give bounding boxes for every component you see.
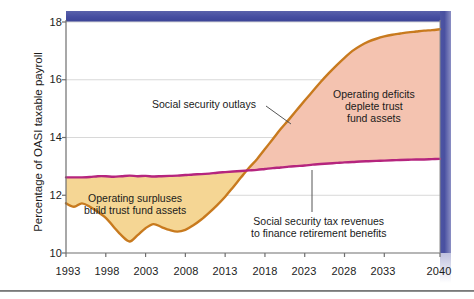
bottom-divider bbox=[0, 290, 474, 292]
annotation-surpluses-line2: build trust fund assets bbox=[84, 204, 186, 216]
annotation-revenues-line2: to finance retirement benefits bbox=[251, 227, 386, 239]
annotation-operating-surpluses: Operating surpluses build trust fund ass… bbox=[84, 192, 186, 216]
annotation-surpluses-line1: Operating surpluses bbox=[84, 192, 186, 204]
x-tick-1998: 1998 bbox=[87, 265, 127, 277]
y-tick-18: 18 bbox=[36, 16, 62, 28]
leader-line-outlays bbox=[266, 106, 291, 124]
y-tick-14: 14 bbox=[36, 131, 62, 143]
x-tick-2013: 2013 bbox=[205, 265, 245, 277]
annotation-deficits-line1: Operating deficits bbox=[333, 88, 415, 100]
annotation-revenues-line1: Social security tax revenues bbox=[251, 215, 386, 227]
x-tick-2003: 2003 bbox=[126, 265, 166, 277]
chart-plot-area bbox=[0, 0, 474, 299]
x-tick-2023: 2023 bbox=[284, 265, 324, 277]
x-tick-2018: 2018 bbox=[245, 265, 285, 277]
annotation-outlays-line1: Social security outlays bbox=[152, 98, 256, 110]
annotation-deficits-line2: deplete trust bbox=[333, 100, 415, 112]
annotation-social-security-outlays: Social security outlays bbox=[152, 98, 256, 110]
x-tick-2040: 2040 bbox=[419, 265, 459, 277]
x-tick-2033: 2033 bbox=[363, 265, 403, 277]
annotation-deficits-line3: fund assets bbox=[333, 112, 415, 124]
y-tick-10: 10 bbox=[36, 247, 62, 259]
x-tick-2008: 2008 bbox=[166, 265, 206, 277]
y-tick-16: 16 bbox=[36, 73, 62, 85]
x-tick-2028: 2028 bbox=[324, 265, 364, 277]
x-tick-1993: 1993 bbox=[48, 265, 88, 277]
annotation-operating-deficits: Operating deficits deplete trust fund as… bbox=[333, 88, 415, 124]
chart-figure: Percentage of OASI taxable payroll 18 16… bbox=[0, 0, 474, 299]
annotation-tax-revenues: Social security tax revenues to finance … bbox=[251, 215, 386, 239]
y-tick-12: 12 bbox=[36, 189, 62, 201]
